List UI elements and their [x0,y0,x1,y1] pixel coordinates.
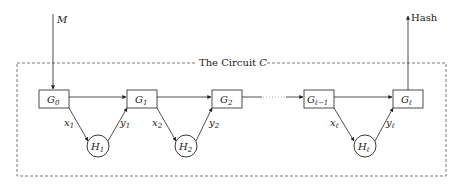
gate-gl-minus-1: Gℓ−1 [304,90,334,108]
hash-node-h2: H2 x2 y2 [152,108,220,157]
circuit-title: The Circuit C [199,57,267,68]
svg-text:xℓ: xℓ [330,117,339,130]
gate-g2: G2 [212,90,242,108]
svg-text:x2: x2 [152,117,163,130]
svg-text:y1: y1 [119,117,130,130]
svg-text:x1: x1 [64,117,74,130]
circuit-diagram: The Circuit C M Hash G0 G1 G2 Gℓ−1 Gℓ H1… [0,0,462,188]
svg-text:y2: y2 [208,117,220,130]
svg-text:yℓ: yℓ [385,117,395,130]
hash-node-hl: Hℓ xℓ yℓ [330,108,395,157]
gate-g1: G1 [127,90,157,108]
gate-gl: Gℓ [393,90,423,108]
gate-g0: G0 [39,90,69,108]
circuit-boundary [17,63,446,176]
input-label: M [56,14,68,25]
output-label: Hash [411,12,438,23]
hash-node-h1: H1 x1 y1 [64,108,130,157]
